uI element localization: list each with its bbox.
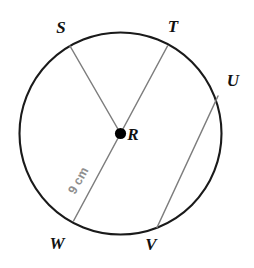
radius-RS-line [70, 46, 121, 134]
geometry-canvas: S T U R V W 9 cm [0, 0, 254, 268]
point-label-S: S [56, 18, 65, 37]
center-point-dot [115, 128, 126, 139]
point-label-U: U [227, 71, 240, 90]
circle-geometry-figure: S T U R V W 9 cm [0, 0, 254, 268]
point-label-V: V [145, 235, 158, 254]
point-label-W: W [49, 234, 66, 253]
point-label-T: T [168, 17, 179, 36]
point-label-R: R [126, 125, 138, 144]
measure-label-9cm: 9 cm [65, 165, 91, 197]
